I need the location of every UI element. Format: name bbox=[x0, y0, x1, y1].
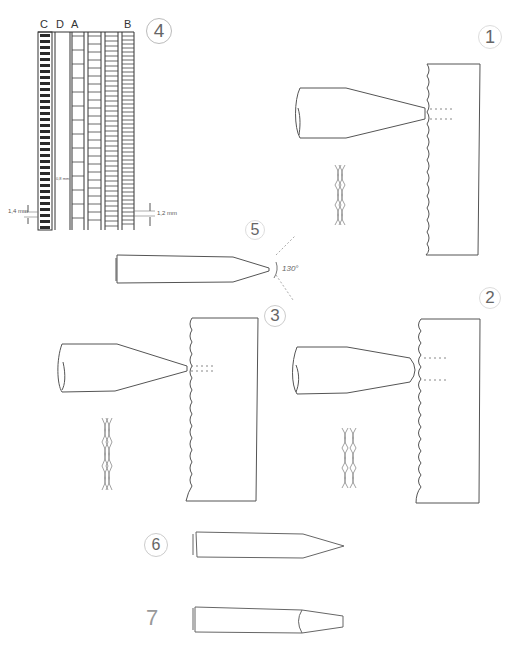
figure-number-7: 7 bbox=[146, 605, 158, 631]
figure-number-6: 6 bbox=[144, 533, 168, 557]
figure-number-3: 3 bbox=[264, 305, 286, 327]
dimension-middle-label: 0,8 mm bbox=[56, 176, 69, 181]
angle-label: 130° bbox=[282, 264, 299, 273]
column-label-d: D bbox=[56, 18, 64, 30]
column-label-a: A bbox=[71, 18, 78, 30]
figure-1-drawing bbox=[296, 64, 481, 255]
mesh-pattern-1 bbox=[335, 165, 345, 225]
figure-5-drawing bbox=[116, 236, 295, 300]
dimension-right-label: 1,2 mm bbox=[157, 210, 177, 216]
column-label-c: C bbox=[40, 18, 48, 30]
figure-number-4: 4 bbox=[146, 18, 172, 44]
figure-3-drawing bbox=[58, 318, 258, 501]
figure-number-2: 2 bbox=[479, 287, 501, 309]
figure-number-1: 1 bbox=[478, 25, 502, 49]
figure-7-drawing bbox=[193, 607, 343, 633]
figure-4-strips bbox=[24, 32, 155, 230]
drawing-canvas bbox=[0, 0, 510, 649]
mesh-pattern-3 bbox=[102, 418, 112, 490]
figure-2-drawing bbox=[293, 319, 481, 503]
figure-number-5: 5 bbox=[245, 220, 265, 240]
column-label-b: B bbox=[124, 18, 131, 30]
dimension-left-label: 1,4 mm bbox=[8, 208, 28, 214]
mesh-pattern-2 bbox=[342, 428, 356, 488]
figure-6-drawing bbox=[193, 532, 344, 558]
